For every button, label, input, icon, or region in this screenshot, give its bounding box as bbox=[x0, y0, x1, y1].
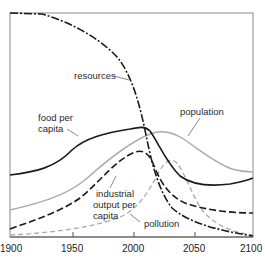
label-industrial-line2: output per bbox=[93, 199, 136, 210]
label-industrial-line3: capita bbox=[93, 210, 119, 221]
food-per-capita-line bbox=[10, 127, 253, 185]
leader-pollution bbox=[130, 214, 140, 222]
label-resources: resources bbox=[74, 70, 116, 81]
leader-population bbox=[188, 118, 200, 136]
label-population: population bbox=[180, 106, 224, 117]
x-tick-label-2000: 2000 bbox=[122, 243, 145, 254]
x-tick-label-1900: 1900 bbox=[0, 243, 23, 254]
x-tick-label-1950: 1950 bbox=[61, 243, 84, 254]
label-food-line2: capita bbox=[38, 123, 64, 134]
leader-industrial bbox=[110, 176, 116, 188]
leader-resources bbox=[114, 76, 129, 80]
x-tick-label-2100: 2100 bbox=[240, 243, 263, 254]
label-industrial-line1: industrial bbox=[96, 188, 134, 199]
label-pollution: pollution bbox=[144, 218, 179, 229]
x-tick-label-2050: 2050 bbox=[183, 243, 206, 254]
leader-food bbox=[67, 129, 78, 136]
chart: resources food per capita population ind… bbox=[0, 0, 265, 259]
label-food-line1: food per bbox=[38, 112, 73, 123]
